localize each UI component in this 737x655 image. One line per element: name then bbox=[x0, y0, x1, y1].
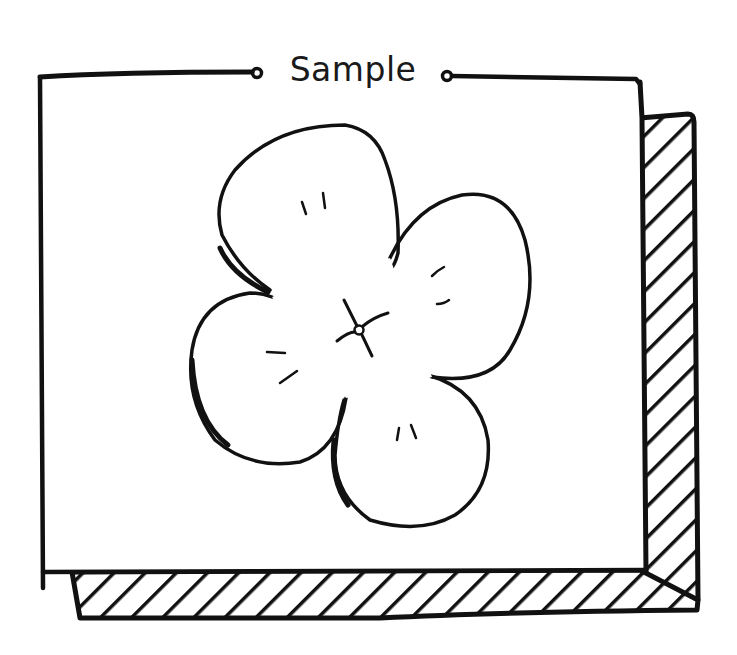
panel-title: Sample bbox=[262, 48, 444, 92]
sample-panel-drawing bbox=[0, 0, 737, 655]
title-rivet-left-icon bbox=[253, 69, 262, 78]
